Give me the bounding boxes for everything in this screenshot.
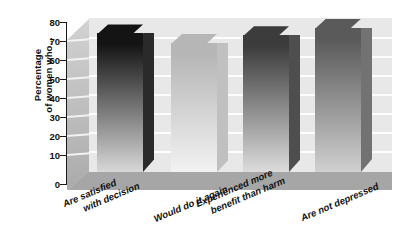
x-axis-tick-label-line: Are not depressed — [299, 180, 380, 223]
x-axis-tick-label: Are not depressed — [299, 180, 380, 223]
x-axis-tick-label: Are satisfied with decision — [61, 169, 141, 220]
bar-chart: Percentage of women who... 80 70 60 50 4… — [0, 0, 418, 252]
x-axis-tick-label: Experienced more benefit than harm — [194, 164, 286, 221]
x-axis-tick-labels: Are satisfied with decision Would do it … — [0, 0, 418, 252]
